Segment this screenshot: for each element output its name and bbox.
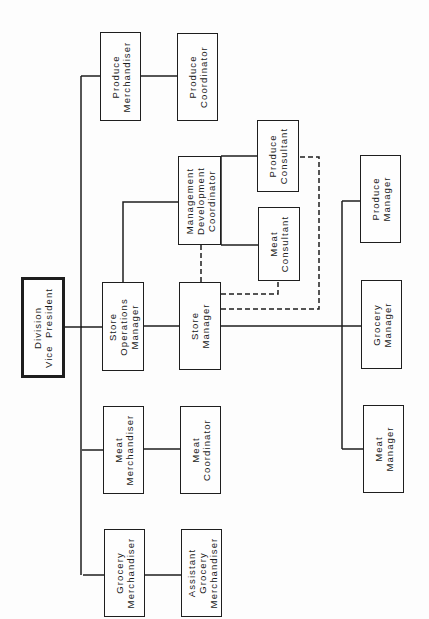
management-development-coordinator-label: ManagementDevelopmentCoordinator <box>183 166 216 234</box>
store-operations-to-mdc-line <box>123 202 178 282</box>
grocery-manager-label: GroceryManager <box>371 302 393 347</box>
box-produce-merchandiser: ProduceMerchandiser <box>100 32 141 121</box>
meat-consultant-label: MeatConsultant <box>268 216 290 272</box>
box-grocery-manager: GroceryManager <box>361 280 402 369</box>
label-line: Consultant <box>279 216 290 272</box>
label-line: Consultant <box>278 128 289 184</box>
box-store-operations-manager: StoreOperationsManager <box>102 282 144 371</box>
label-line: Grocery <box>196 538 207 609</box>
label-line: Produce <box>267 128 278 184</box>
label-line: Produce <box>370 176 381 221</box>
box-produce-consultant: ProduceConsultant <box>257 120 299 192</box>
label-line: Assistant <box>185 538 196 609</box>
label-line: Merchandiser <box>207 538 218 609</box>
produce-consultant-label: ProduceConsultant <box>267 128 289 184</box>
assistant-grocery-merchandiser-label: AssistantGroceryMerchandiser <box>185 538 218 609</box>
label-line: Meat <box>373 426 384 471</box>
label-line: Merchandiser <box>124 415 135 486</box>
produce-coordinator-label: ProduceCoordinator <box>187 46 209 108</box>
label-line: Produce <box>187 46 198 108</box>
box-meat-manager: MeatManager <box>363 405 404 493</box>
box-division-vice-president: DivisionVice President <box>21 277 65 378</box>
meat-merchandiser-label: MeatMerchandiser <box>113 415 135 486</box>
grocery-merchandiser-label: GroceryMerchandiser <box>114 538 136 609</box>
label-line: Manager <box>382 302 393 347</box>
label-line: Operations <box>118 298 129 355</box>
box-store-manager: StoreManager <box>179 282 221 370</box>
box-management-development-coordinator: ManagementDevelopmentCoordinator <box>178 156 221 245</box>
label-line: Manager <box>381 176 392 221</box>
store-operations-manager-label: StoreOperationsManager <box>107 298 140 355</box>
label-line: Division <box>32 287 43 367</box>
label-line: Manager <box>384 426 395 471</box>
label-line: Produce <box>110 41 121 112</box>
label-line: Coordinator <box>198 46 209 108</box>
produce-merchandiser-label: ProduceMerchandiser <box>110 41 132 112</box>
store-manager-label: StoreManager <box>189 303 211 348</box>
label-line: Merchandiser <box>121 41 132 112</box>
division-vice-president-label: DivisionVice President <box>32 287 54 367</box>
store-manager-to-meat-consultant-dashed-line <box>221 281 278 294</box>
label-line: Meat <box>190 419 201 481</box>
label-line: Meat <box>268 216 279 272</box>
label-line: Manager <box>200 303 211 348</box>
org-chart-canvas: DivisionVice President ProduceMerchandis… <box>0 0 429 619</box>
box-assistant-grocery-merchandiser: AssistantGroceryMerchandiser <box>181 529 222 617</box>
produce-manager-label: ProduceManager <box>370 176 392 221</box>
label-line: Meat <box>113 415 124 486</box>
label-line: Grocery <box>114 538 125 609</box>
box-produce-coordinator: ProduceCoordinator <box>177 33 218 121</box>
label-line: Vice President <box>43 287 54 367</box>
box-meat-coordinator: MeatCoordinator <box>180 406 221 494</box>
box-meat-consultant: MeatConsultant <box>258 207 300 281</box>
box-produce-manager: ProduceManager <box>360 155 401 243</box>
meat-manager-label: MeatManager <box>373 426 395 471</box>
box-grocery-merchandiser: GroceryMerchandiser <box>104 529 145 617</box>
label-line: Grocery <box>371 302 382 347</box>
label-line: Coordinator <box>201 419 212 481</box>
label-line: Manager <box>129 298 140 355</box>
meat-coordinator-label: MeatCoordinator <box>190 419 212 481</box>
label-line: Development <box>194 166 205 234</box>
label-line: Store <box>189 303 200 348</box>
label-line: Store <box>107 298 118 355</box>
label-line: Management <box>183 166 194 234</box>
label-line: Coordinator <box>205 166 216 234</box>
label-line: Merchandiser <box>125 538 136 609</box>
box-meat-merchandiser: MeatMerchandiser <box>103 406 144 494</box>
